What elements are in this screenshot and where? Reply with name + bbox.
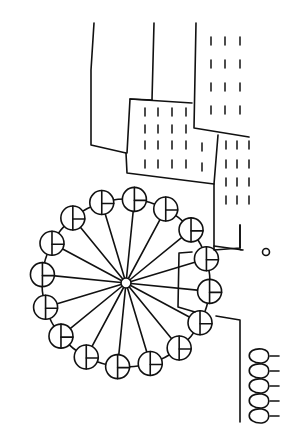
gondola bbox=[34, 295, 58, 319]
bushes bbox=[249, 349, 279, 423]
gondola bbox=[61, 206, 85, 230]
gondola bbox=[122, 187, 146, 211]
drawing-canvas: Line drawing of a ferris wheel beside bu… bbox=[0, 0, 289, 443]
building-windows bbox=[145, 37, 249, 204]
gondola bbox=[198, 279, 222, 303]
gondola bbox=[106, 355, 130, 379]
gondola bbox=[74, 345, 98, 369]
gondola bbox=[30, 263, 54, 287]
gondola bbox=[138, 351, 162, 375]
gondola bbox=[154, 197, 178, 221]
gondola bbox=[49, 324, 73, 348]
small-ring-icon bbox=[263, 249, 270, 256]
gondola bbox=[167, 336, 191, 360]
gondola bbox=[179, 218, 203, 242]
gondola bbox=[40, 231, 64, 255]
ferris-wheel bbox=[30, 187, 221, 378]
ferris-wheel-drawing bbox=[0, 0, 289, 443]
gondola bbox=[188, 311, 212, 335]
gondola bbox=[90, 191, 114, 215]
